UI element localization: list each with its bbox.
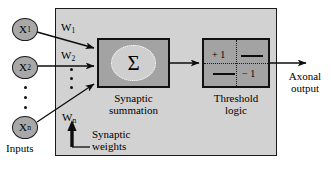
connector-layer: [0, 0, 331, 171]
connector-x1: [37, 32, 94, 48]
connector-xn: [37, 84, 94, 122]
neuron-diagram: X1 X2 Xn Inputs W1 W2 Wn Synaptic weight…: [0, 0, 331, 171]
weights-leader-arrowhead: [67, 120, 76, 131]
